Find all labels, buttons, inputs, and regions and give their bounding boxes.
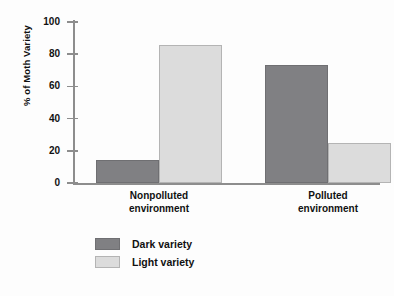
category-label-line: environment <box>235 203 394 216</box>
y-axis-tick-label: 100 <box>14 17 60 27</box>
category-label-line: Nonpolluted <box>66 190 252 203</box>
y-axis-tick-label: 0 <box>14 178 60 188</box>
legend-item-light: Light variety <box>95 254 194 270</box>
bar-light-variety-polluted <box>328 143 391 183</box>
category-label-polluted: Pollutedenvironment <box>235 190 394 215</box>
y-axis-tick-label: 20 <box>14 146 60 156</box>
x-axis-line <box>73 183 380 185</box>
bar-dark-variety-polluted <box>265 65 328 183</box>
category-label-nonpolluted: Nonpollutedenvironment <box>66 190 252 215</box>
legend-swatch-light <box>95 256 120 268</box>
category-label-line: Polluted <box>235 190 394 203</box>
chart-legend: Dark varietyLight variety <box>95 236 194 272</box>
y-axis-tick-label: 60 <box>14 81 60 91</box>
category-label-line: environment <box>66 203 252 216</box>
moth-variety-bar-chart: % of Moth Variety 100806040200 Nonpollut… <box>0 0 394 296</box>
bar-light-variety-nonpolluted <box>159 45 222 183</box>
bar-dark-variety-nonpolluted <box>96 160 159 183</box>
legend-swatch-dark <box>95 238 120 250</box>
legend-label: Dark variety <box>132 239 192 250</box>
legend-label: Light variety <box>132 257 194 268</box>
legend-item-dark: Dark variety <box>95 236 194 252</box>
plot-area <box>73 22 378 183</box>
y-axis-tick-label: 80 <box>14 49 60 59</box>
y-axis-tick-label: 40 <box>14 114 60 124</box>
